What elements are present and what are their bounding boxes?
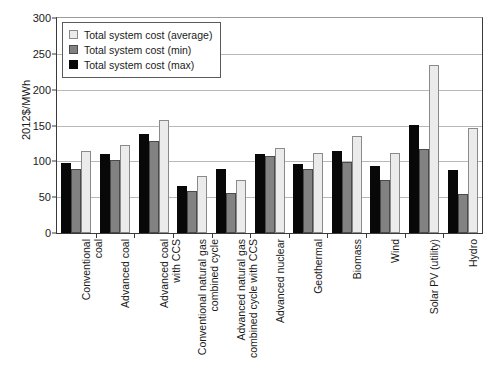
x-axis-label: Advanced coal with CCS — [158, 239, 182, 369]
y-tick-label: 100 — [33, 155, 51, 167]
y-tick-label: 200 — [33, 84, 51, 96]
bar-group — [448, 18, 478, 233]
legend-swatch-avg — [69, 30, 78, 39]
x-axis-label: Conventional natural gas combined cycle — [196, 239, 220, 369]
bar-min — [419, 149, 429, 233]
y-tick-label: 150 — [33, 120, 51, 132]
x-tick-mark — [289, 233, 290, 238]
bar-max — [100, 154, 110, 233]
x-axis-label: Advanced coal — [119, 239, 131, 369]
x-tick-mark — [327, 233, 328, 238]
y-axis-title: 2012$/MWh — [20, 40, 32, 180]
legend-swatch-max — [69, 60, 78, 69]
x-axis-label: Solar PV (utility) — [428, 239, 440, 369]
bar-avg — [120, 145, 130, 233]
bar-group — [255, 18, 285, 233]
bar-group — [293, 18, 323, 233]
bar-avg — [352, 136, 362, 233]
legend-label: Total system cost (average) — [84, 29, 212, 41]
bar-min — [303, 169, 313, 233]
y-tick-label: 0 — [45, 227, 51, 239]
bar-group — [409, 18, 439, 233]
bar-max — [370, 166, 380, 233]
bar-max — [293, 164, 303, 233]
y-tick-label: 250 — [33, 48, 51, 60]
bar-max — [255, 154, 265, 233]
bar-avg — [236, 180, 246, 233]
bar-group — [332, 18, 362, 233]
bar-min — [342, 162, 352, 233]
bar-max — [177, 186, 187, 233]
bar-max — [61, 163, 71, 233]
x-tick-mark — [134, 233, 135, 238]
bar-min — [110, 160, 120, 233]
x-axis-label: Hydro — [467, 239, 479, 369]
y-tick-label: 300 — [33, 12, 51, 24]
legend-item: Total system cost (min) — [69, 42, 212, 57]
legend-label: Total system cost (min) — [84, 44, 191, 56]
bar-min — [71, 169, 81, 234]
bar-max — [332, 151, 342, 233]
x-axis-labels: Conventional coalAdvanced coalAdvanced c… — [56, 239, 481, 369]
x-tick-mark — [96, 233, 97, 238]
x-axis-label: Biomass — [351, 239, 363, 369]
x-tick-mark — [173, 233, 174, 238]
bar-avg — [429, 65, 439, 233]
legend-label: Total system cost (max) — [84, 59, 194, 71]
x-tick-mark — [405, 233, 406, 238]
x-tick-mark — [212, 233, 213, 238]
bar-group — [370, 18, 400, 233]
bar-max — [448, 170, 458, 233]
bar-min — [265, 156, 275, 233]
x-axis-label: Geothermal — [312, 239, 324, 369]
bar-min — [380, 180, 390, 233]
x-axis-label: Advanced natural gas combined cycle with… — [235, 239, 259, 369]
bar-avg — [275, 148, 285, 233]
bar-max — [139, 134, 149, 233]
bar-avg — [468, 128, 478, 233]
bar-avg — [81, 151, 91, 233]
chart-legend: Total system cost (average)Total system … — [62, 22, 221, 78]
bar-avg — [390, 153, 400, 233]
legend-item: Total system cost (average) — [69, 27, 212, 42]
bar-min — [187, 191, 197, 233]
bar-max — [409, 125, 419, 233]
x-tick-mark — [250, 233, 251, 238]
y-tick-label: 50 — [39, 191, 51, 203]
bar-avg — [313, 153, 323, 233]
bar-avg — [197, 176, 207, 233]
legend-swatch-min — [69, 45, 78, 54]
x-tick-mark — [443, 233, 444, 238]
bar-avg — [159, 120, 169, 233]
x-axis-label: Wind — [389, 239, 401, 369]
bar-min — [458, 194, 468, 233]
x-tick-mark — [366, 233, 367, 238]
chart-figure: 2012$/MWh 050100150200250300 Conventiona… — [0, 0, 494, 377]
bar-max — [216, 169, 226, 233]
legend-item: Total system cost (max) — [69, 57, 212, 72]
bar-min — [226, 193, 236, 233]
bar-min — [149, 141, 159, 233]
x-axis-label: Advanced nuclear — [274, 239, 286, 369]
x-axis-label: Conventional coal — [80, 239, 104, 369]
